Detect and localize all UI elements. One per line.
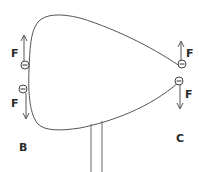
charge-b-top [21,61,29,69]
force-arrow-b-up-icon [21,35,27,61]
point-label-c: C [176,132,184,145]
force-arrow-c-up-icon [178,41,184,60]
charge-c-top [178,60,186,68]
force-arrow-b-down-icon [23,93,29,119]
force-label-b-top: F [11,47,19,60]
charge-b-bottom [19,85,27,93]
charged-body-diagram: F F B F F C [0,0,199,172]
conductor-outline [29,15,181,130]
force-arrow-c-down-icon [177,85,183,109]
charge-c-bottom [175,77,183,85]
point-label-b: B [19,141,27,154]
force-label-c-top: F [186,47,194,60]
force-label-b-bottom: F [11,97,19,110]
force-label-c-bottom: F [185,88,193,101]
